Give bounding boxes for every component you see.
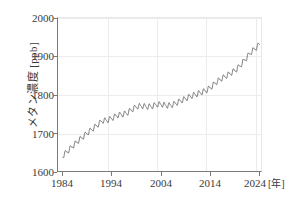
methane-concentration-chart: メタン濃度 [ppb] 2000 1900 1800 1700 1600 198… xyxy=(0,0,306,203)
x-tick-mark xyxy=(210,172,211,176)
x-axis-unit-label: [年] xyxy=(268,178,285,189)
y-axis-title: メタン濃度 [ppb] xyxy=(24,0,42,170)
y-tick-label-1800: 1800 xyxy=(14,90,54,101)
y-tick-label-1700: 1700 xyxy=(14,129,54,140)
x-tick-label-2014: 2014 xyxy=(187,178,233,189)
x-tick-label-1994: 1994 xyxy=(88,178,134,189)
y-tick-label-2000: 2000 xyxy=(14,13,54,24)
x-tick-mark xyxy=(259,172,260,176)
methane-series-line xyxy=(58,18,262,172)
y-tick-mark xyxy=(53,172,57,173)
x-tick-mark xyxy=(161,172,162,176)
x-tick-label-2004: 2004 xyxy=(138,178,184,189)
plot-area xyxy=(57,17,262,172)
x-tick-mark xyxy=(111,172,112,176)
x-tick-label-1984: 1984 xyxy=(39,178,85,189)
x-tick-mark xyxy=(62,172,63,176)
y-tick-label-1900: 1900 xyxy=(14,51,54,62)
y-tick-label-1600: 1600 xyxy=(14,167,54,178)
